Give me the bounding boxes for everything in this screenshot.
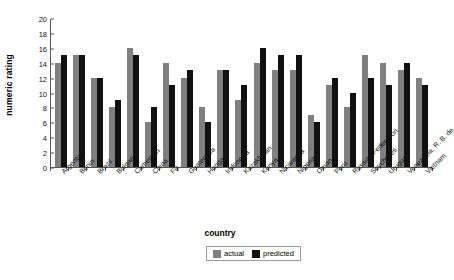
bar-group: [70, 19, 88, 167]
bar-group: [124, 19, 142, 167]
bar-predicted: [278, 55, 284, 167]
legend-item: predicted: [252, 249, 294, 258]
x-axis-labels: ArgentinaBeninBrazilBulgariaCameroonChin…: [50, 170, 432, 228]
bar-group: [232, 19, 250, 167]
legend-label: predicted: [263, 249, 294, 258]
y-axis-title-text: numeric rating: [4, 54, 14, 116]
y-tick-2: 2: [43, 149, 51, 158]
bar-group: [214, 19, 232, 167]
bar-group: [413, 19, 431, 167]
chart-legend: actualpredicted: [206, 246, 301, 261]
bar-group: [52, 19, 70, 167]
bar-group: [395, 19, 413, 167]
y-tick-16: 16: [39, 44, 51, 53]
y-tick-12: 12: [39, 74, 51, 83]
bar-group: [359, 19, 377, 167]
bar-group: [178, 19, 196, 167]
y-tick-20: 20: [39, 15, 51, 24]
bar-group: [323, 19, 341, 167]
y-axis-title: numeric rating: [2, 0, 16, 170]
bar-predicted: [169, 85, 175, 167]
bar-group: [305, 19, 323, 167]
legend-swatch: [213, 250, 221, 258]
y-tick-14: 14: [39, 59, 51, 68]
bar-predicted: [332, 78, 338, 167]
bar-predicted: [97, 78, 103, 167]
legend-swatch: [252, 250, 260, 258]
bar-predicted: [187, 70, 193, 167]
y-tick-8: 8: [43, 104, 51, 113]
y-tick-10: 10: [39, 89, 51, 98]
bar-group: [287, 19, 305, 167]
bar-group: [88, 19, 106, 167]
y-tick-18: 18: [39, 29, 51, 38]
y-tick-6: 6: [43, 119, 51, 128]
bar-group: [196, 19, 214, 167]
y-tick-4: 4: [43, 134, 51, 143]
bar-predicted: [133, 55, 139, 167]
bar-group: [269, 19, 287, 167]
x-axis-title: country: [0, 228, 440, 238]
bar-group: [341, 19, 359, 167]
bar-group: [106, 19, 124, 167]
bar-predicted: [350, 93, 356, 168]
bar-group: [142, 19, 160, 167]
bar-predicted: [115, 100, 121, 167]
legend-item: actual: [213, 249, 244, 258]
legend-label: actual: [224, 249, 244, 258]
bar-predicted: [61, 55, 67, 167]
bar-group: [160, 19, 178, 167]
x-axis-title-text: country: [204, 228, 235, 238]
